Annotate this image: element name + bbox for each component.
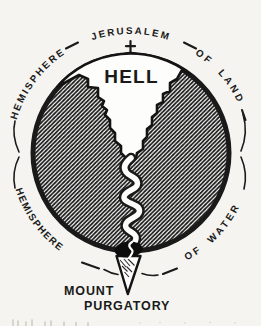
mount-label: MOUNT: [64, 284, 114, 298]
diagram-canvas: JERUSALEM HEMISPHERE OF LAND HEMISPHERE …: [0, 0, 261, 326]
dante-cosmology-diagram: JERUSALEM HEMISPHERE OF LAND HEMISPHERE …: [0, 0, 261, 326]
purgatory-label: PURGATORY: [84, 299, 170, 313]
hell-label: HELL: [104, 66, 158, 87]
